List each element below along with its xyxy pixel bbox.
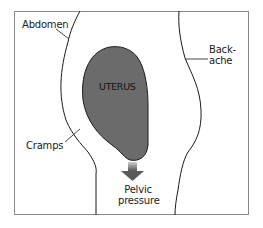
pelvic-pressure-label-line2: pressure [118,195,158,206]
pelvic-pressure-label-line1: Pelvic [118,184,158,195]
abdomen-leader [56,29,69,39]
cramps-label: Cramps [26,140,63,151]
back-outline [175,11,201,215]
backache-label-line2: ache [209,55,236,66]
pelvic-pressure-label: Pelvic pressure [118,184,158,206]
pelvic-arrow-head [121,171,144,181]
abdomen-label: Abdomen [22,19,69,30]
backache-label: Back- ache [209,44,236,66]
pelvic-arrow-shaft [128,162,137,171]
uterus-label: UTERUS [99,81,136,92]
backache-label-line1: Back- [209,44,236,55]
uterus-shape [83,47,148,161]
